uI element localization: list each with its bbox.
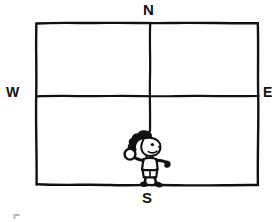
field-border-left bbox=[36, 24, 37, 185]
ball bbox=[125, 149, 136, 160]
compass-label-south: S bbox=[142, 190, 152, 205]
compass-label-north: N bbox=[143, 2, 153, 17]
child-right-hand bbox=[165, 161, 170, 167]
compass-label-west: W bbox=[6, 85, 19, 99]
diagram-canvas: N S W E bbox=[0, 0, 274, 222]
child-eye bbox=[151, 143, 154, 146]
canvas-background bbox=[0, 0, 274, 222]
compass-label-east: E bbox=[263, 85, 272, 99]
child-left-foot bbox=[140, 182, 147, 186]
compass-field-sketch bbox=[0, 0, 274, 222]
child-right-foot bbox=[154, 182, 162, 186]
field-border-top bbox=[37, 23, 259, 24]
west-east-axis bbox=[36, 96, 258, 97]
field-border-right bbox=[258, 23, 259, 184]
